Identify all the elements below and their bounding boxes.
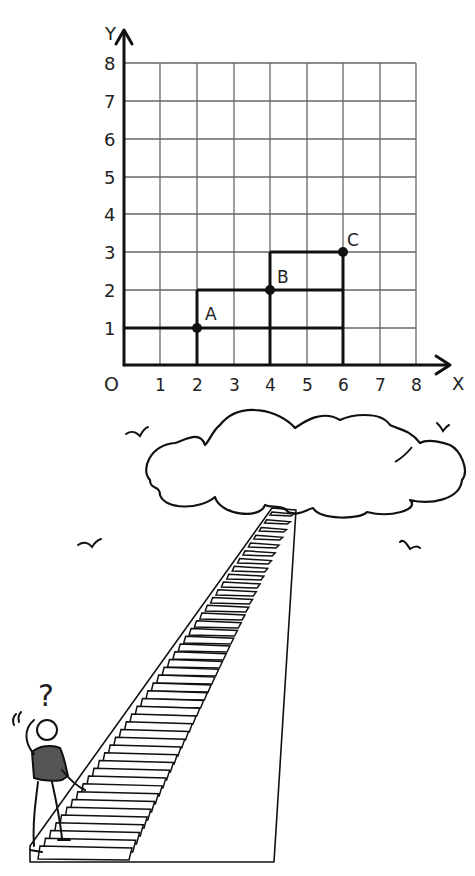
stair-step: [167, 660, 222, 668]
bird-icon: [400, 541, 420, 549]
stair-step: [173, 652, 226, 660]
stair-steps: [38, 512, 294, 860]
point-b-label: B: [277, 267, 289, 287]
svg-text:8: 8: [411, 375, 422, 395]
stair-step: [227, 574, 264, 580]
svg-text:1: 1: [155, 375, 166, 395]
origin-label: O: [104, 373, 119, 395]
stair-step: [238, 559, 272, 564]
svg-text:2: 2: [192, 375, 203, 395]
stair-step: [38, 846, 132, 860]
question-mark: ?: [38, 678, 54, 713]
stair-step: [221, 582, 260, 588]
arm-raised: [26, 720, 34, 754]
x-axis-label: X: [452, 373, 464, 394]
bird-icon: [126, 427, 148, 436]
svg-text:8: 8: [104, 53, 115, 74]
point-a: [192, 323, 202, 333]
svg-text:5: 5: [302, 375, 313, 395]
stair-step: [248, 543, 279, 548]
svg-text:1: 1: [104, 318, 115, 339]
shirt: [32, 746, 68, 781]
scratch-lines: [13, 712, 21, 725]
stair-step: [243, 551, 275, 556]
svg-text:6: 6: [104, 129, 115, 150]
svg-text:4: 4: [265, 375, 276, 395]
stair-step: [254, 535, 283, 540]
point-a-label: A: [205, 304, 217, 324]
stair-step: [194, 621, 241, 628]
y-tick-labels: 1 2 3 4 5 6 7 8: [104, 53, 115, 339]
svg-text:7: 7: [375, 375, 386, 395]
bird-icon: [437, 423, 449, 431]
stair-step: [265, 520, 291, 524]
stair-step: [162, 667, 219, 676]
svg-text:5: 5: [104, 167, 115, 188]
point-c-label: C: [347, 230, 359, 250]
cloud: [146, 410, 465, 518]
svg-text:2: 2: [104, 280, 115, 301]
y-axis-label: Y: [104, 23, 117, 44]
svg-text:6: 6: [338, 375, 349, 395]
x-tick-labels: 1 2 3 4 5 6 7 8: [155, 375, 422, 395]
stair-step: [200, 613, 245, 620]
stair-step: [259, 528, 286, 532]
stair-step: [184, 636, 234, 644]
svg-text:3: 3: [104, 242, 115, 263]
svg-text:7: 7: [104, 91, 115, 112]
stair-step: [189, 629, 237, 636]
svg-text:4: 4: [104, 204, 115, 225]
point-b: [265, 285, 275, 295]
stair-step: [232, 566, 267, 572]
stair-step: [211, 597, 253, 604]
stair-step: [178, 644, 230, 652]
axes: [116, 30, 450, 374]
stair-step: [205, 605, 249, 612]
stair-step: [216, 590, 256, 596]
bird-icon: [78, 539, 101, 547]
svg-text:3: 3: [229, 375, 240, 395]
head: [37, 720, 57, 740]
